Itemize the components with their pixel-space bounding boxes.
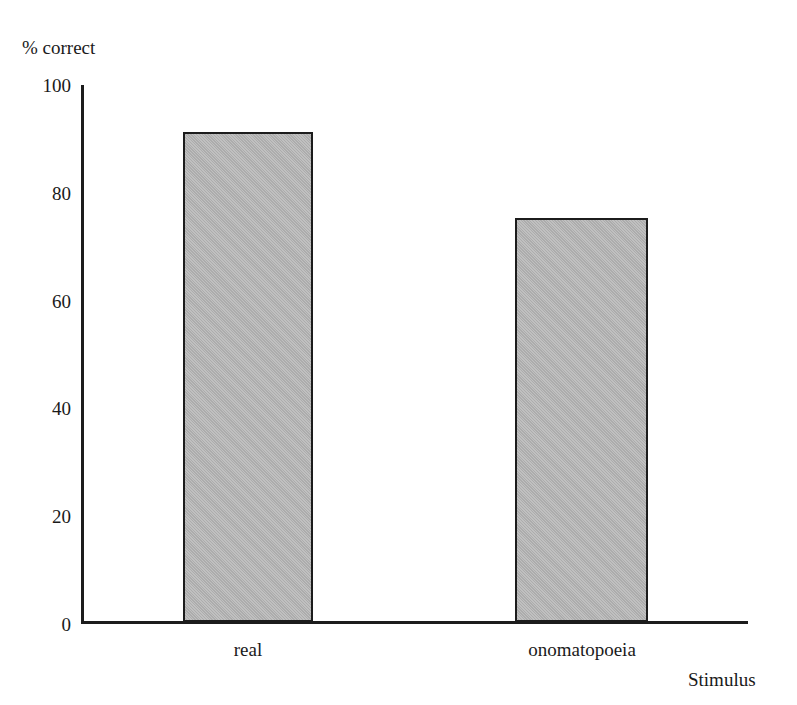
plot-area xyxy=(81,85,748,624)
x-tick-label-real: real xyxy=(234,640,262,659)
y-tick-label: 20 xyxy=(52,507,71,526)
y-tick-label: 100 xyxy=(43,76,72,95)
bar-chart-figure: % correct 100 80 60 40 20 0 real onomato… xyxy=(0,0,797,705)
bar-real xyxy=(183,132,313,622)
y-tick-label: 0 xyxy=(62,615,72,634)
x-tick-label-onomatopoeia: onomatopoeia xyxy=(528,640,636,659)
y-tick-label: 40 xyxy=(52,399,71,418)
y-axis-line xyxy=(81,85,84,624)
y-axis-title: % correct xyxy=(22,38,95,57)
x-axis-title: Stimulus xyxy=(688,670,756,689)
y-axis-tick-labels: 100 80 60 40 20 0 xyxy=(0,85,71,624)
y-tick-label: 80 xyxy=(52,183,71,202)
bar-onomatopoeia xyxy=(515,218,648,622)
y-tick-label: 60 xyxy=(52,291,71,310)
